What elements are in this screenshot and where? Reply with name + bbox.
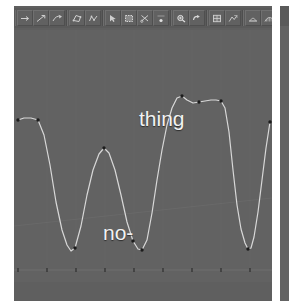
polygon-icon[interactable]	[69, 10, 85, 26]
data-point-marker	[197, 100, 200, 103]
scissors-icon[interactable]	[137, 10, 153, 26]
data-point-marker	[219, 99, 222, 102]
toolbar-group-arrow-tools	[15, 10, 67, 26]
integrate-icon[interactable]	[261, 10, 272, 26]
plot-panel: thing no-	[14, 6, 272, 301]
data-point-marker	[73, 246, 76, 249]
dot-icon[interactable]	[153, 10, 169, 26]
overlay-label-no: no-	[103, 221, 133, 245]
baseline-icon[interactable]	[245, 10, 261, 26]
data-reader-icon[interactable]	[225, 10, 241, 26]
pointer-icon[interactable]	[105, 10, 121, 26]
toolbar-group-select-tools	[103, 10, 171, 26]
data-point-marker	[140, 248, 143, 251]
toolbar-group-zoom-tools	[171, 10, 207, 26]
grid-horizontal	[14, 60, 272, 220]
data-point-marker	[36, 118, 39, 121]
plot-tools-toolbar[interactable]	[14, 8, 272, 28]
toolbar-group-shape-tools	[67, 10, 103, 26]
data-point-marker	[246, 247, 249, 250]
data-point-marker	[268, 120, 271, 123]
region-select-icon[interactable]	[121, 10, 137, 26]
screen-reader-icon[interactable]	[209, 10, 225, 26]
plot-application-window: thing no-	[0, 0, 289, 308]
zoom-in-icon[interactable]	[173, 10, 189, 26]
chart-svg	[14, 30, 272, 282]
toolbar-group-reader-tools	[207, 10, 243, 26]
pan-icon[interactable]	[189, 10, 205, 26]
arrow-right-icon[interactable]	[17, 10, 33, 26]
curve-arrow-icon[interactable]	[49, 10, 65, 26]
overlay-label-thing: thing	[139, 107, 185, 131]
polyline-icon[interactable]	[85, 10, 101, 26]
data-point-marker	[16, 118, 19, 121]
adjacent-window-toolbar-sliver	[280, 6, 289, 26]
window-bottom-strip	[0, 301, 289, 308]
data-point-marker	[180, 94, 183, 97]
chart-plot-area[interactable]	[14, 30, 272, 282]
arrow-diagonal-icon[interactable]	[33, 10, 49, 26]
data-point-marker	[102, 146, 105, 149]
toolbar-group-curve-tools	[243, 10, 272, 26]
scan-artifact	[14, 198, 272, 226]
adjacent-window-sliver[interactable]	[280, 6, 289, 301]
